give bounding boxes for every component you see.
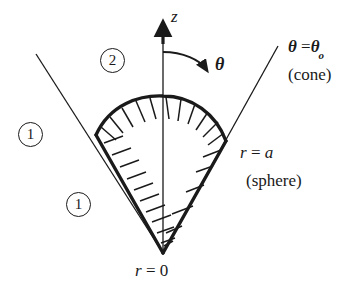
spherical-sector-diagram: z θ θ =θo (cone) r = a (sphere) r = 0 1 … (0, 0, 361, 292)
sector-right-radius (163, 141, 226, 253)
spherical-sector-outline (96, 96, 226, 253)
origin-equation-rhs: 0 (160, 261, 169, 280)
origin-equation-lhs: r (135, 261, 142, 280)
region-badge-1-upper-left: 1 (18, 122, 43, 147)
sphere-equation-equals: = (251, 143, 261, 162)
cone-caption: (cone) (288, 66, 331, 83)
cone-equation-lhs: θ (288, 37, 297, 56)
origin-equation-label: r = 0 (135, 262, 168, 279)
sector-left-radius (96, 135, 163, 253)
sphere-equation-rhs: a (265, 143, 274, 162)
z-axis-label: z (171, 8, 178, 25)
origin-equation-equals: = (146, 261, 156, 280)
sphere-equation-label: r = a (240, 144, 273, 161)
cone-left-generator (36, 54, 163, 253)
cone-equation-subscript: o (319, 49, 325, 61)
sphere-equation-lhs: r (240, 143, 247, 162)
cone-equation-equals: = (301, 37, 311, 56)
theta-angle-label: θ (215, 55, 224, 73)
cone-equation-label: θ =θo (288, 38, 325, 58)
region-badge-1-lower-left: 1 (66, 192, 91, 217)
sphere-caption: (sphere) (246, 172, 302, 189)
region-badge-2-top: 2 (100, 48, 125, 73)
theta-angle-arrow (163, 52, 206, 69)
